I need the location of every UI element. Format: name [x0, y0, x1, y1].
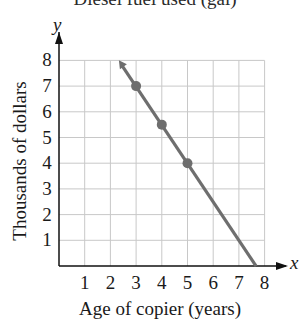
x-tick-label: 7	[234, 272, 244, 293]
x-axis-arrow-icon	[276, 262, 288, 270]
y-axis-arrow-icon	[55, 32, 63, 44]
y-tick-label: 1	[42, 229, 52, 250]
x-tick-label: 2	[106, 272, 116, 293]
y-tick-label: 8	[42, 49, 52, 70]
y-tick-label: 7	[42, 75, 52, 96]
x-tick-label: 3	[131, 272, 141, 293]
x-tick-label: 4	[157, 272, 167, 293]
data-point	[131, 81, 141, 91]
y-tick-label: 2	[42, 204, 52, 225]
plot-area: 1234567812345678	[0, 0, 302, 336]
y-tick-label: 5	[42, 127, 52, 148]
y-tick-label: 4	[42, 152, 52, 173]
x-tick-label: 1	[80, 272, 90, 293]
data-point	[183, 158, 193, 168]
x-tick-label: 5	[183, 272, 193, 293]
x-tick-label: 6	[208, 272, 218, 293]
x-tick-label: 8	[260, 272, 270, 293]
y-tick-label: 6	[42, 101, 52, 122]
data-point	[157, 120, 167, 130]
y-tick-label: 3	[42, 178, 52, 199]
chart: Diesel fuel used (gal) y x Thousands of …	[0, 0, 302, 336]
